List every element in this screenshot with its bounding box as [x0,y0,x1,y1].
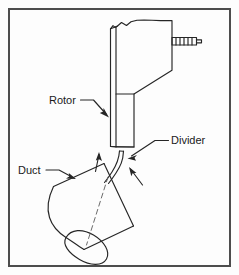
label-rotor: Rotor [49,94,76,106]
rotor-bottom-edge [111,147,135,148]
label-divider: Divider [171,134,206,146]
figure-root: Rotor Divider Duct [0,0,239,275]
technical-drawing: Rotor Divider Duct [0,0,239,275]
label-duct: Duct [18,164,41,176]
